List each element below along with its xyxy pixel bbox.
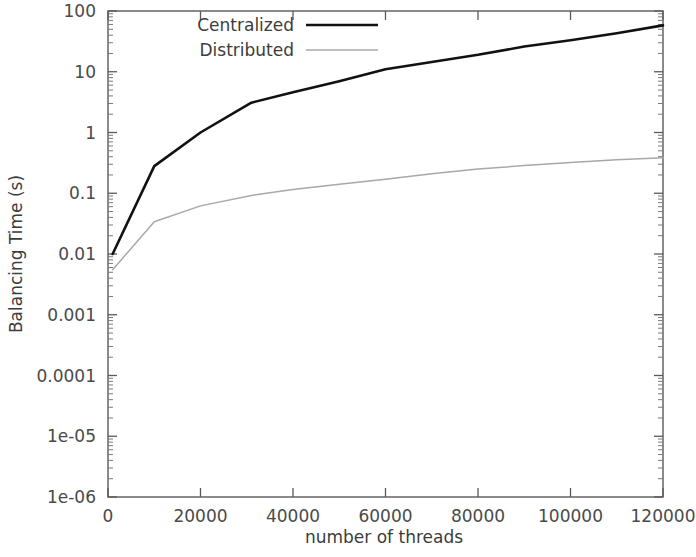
chart-container: 1001010.10.010.0010.00011e-051e-06 02000… <box>0 0 696 557</box>
line-chart-svg: 1001010.10.010.0010.00011e-051e-06 02000… <box>0 0 696 557</box>
x-tick-label: 20000 <box>173 506 227 526</box>
data-series-group <box>113 25 663 269</box>
y-tick-label: 10 <box>74 62 96 82</box>
y-axis-title: Balancing Time (s) <box>6 175 26 333</box>
x-tick-label: 100000 <box>538 506 603 526</box>
y-tick-label: 1 <box>85 123 96 143</box>
legend-label-centralized: Centralized <box>197 15 294 35</box>
y-tick-label: 0.001 <box>47 305 96 325</box>
plot-frame <box>108 11 663 497</box>
x-tick-label: 40000 <box>266 506 320 526</box>
x-tick-label: 60000 <box>358 506 412 526</box>
legend: Centralized Distributed <box>197 15 378 60</box>
x-tick-label: 80000 <box>451 506 505 526</box>
x-axis-tick-labels: 020000400006000080000100000120000 <box>103 506 696 526</box>
x-tick-label: 120000 <box>631 506 696 526</box>
y-tick-label: 1e-06 <box>47 487 96 507</box>
legend-label-distributed: Distributed <box>199 40 294 60</box>
y-axis-ticks <box>108 11 663 497</box>
x-axis-title: number of threads <box>305 527 463 547</box>
y-tick-label: 100 <box>64 1 96 21</box>
y-tick-label: 0.1 <box>69 183 96 203</box>
x-tick-label: 0 <box>103 506 114 526</box>
series-line-centralized <box>113 25 663 254</box>
series-line-distributed <box>113 158 663 270</box>
y-axis-tick-labels: 1001010.10.010.0010.00011e-051e-06 <box>37 1 96 507</box>
x-axis-ticks <box>108 11 663 497</box>
y-tick-label: 1e-05 <box>47 426 96 446</box>
y-tick-label: 0.0001 <box>37 366 96 386</box>
y-tick-label: 0.01 <box>58 244 96 264</box>
